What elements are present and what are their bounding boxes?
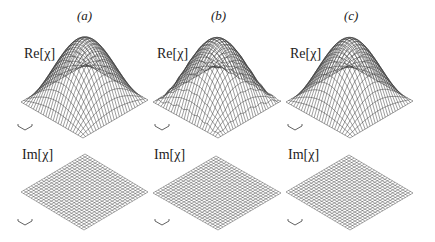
im-surface-a-line-v <box>81 190 145 228</box>
im-surface-c-line-v <box>347 191 410 228</box>
im-surface-a-line-u <box>67 165 130 203</box>
im-surface-a-line-u <box>44 178 107 216</box>
figure: (a) (b) (c) Re[χ] Re[χ] Re[χ] Im[χ] Im[χ… <box>0 0 435 242</box>
im-surface-c-line-v <box>330 181 393 218</box>
im-surface-a-line-u <box>59 169 122 207</box>
im-surface-a-line-v <box>51 172 115 210</box>
im-surface-a-line-u <box>62 168 125 206</box>
panel-label-b: (b) <box>211 8 226 24</box>
im-surface-c-line-v <box>317 173 380 210</box>
im-label-a: Im[χ] <box>22 147 53 163</box>
wireframe-plots <box>0 0 435 242</box>
re-axes-icon-b <box>155 124 169 130</box>
re-surface-a-line-u <box>21 102 83 138</box>
re-surface-a-line-v <box>83 100 148 138</box>
im-surface-a-line-v <box>64 180 128 218</box>
im-surface-a-line-u <box>52 174 115 212</box>
im-surface-c-line-v <box>314 172 377 209</box>
im-surface-c-line-v <box>340 187 403 224</box>
re-surface-b-line-u <box>153 102 218 138</box>
im-surface-a-line-u <box>24 190 87 228</box>
im-surface-a-line-v <box>39 165 103 203</box>
im-surface-a-line-u <box>41 180 104 218</box>
im-surface-a-line-v <box>36 163 100 201</box>
re-surface-b-line-v <box>208 82 271 133</box>
im-axes-icon-c <box>288 219 302 225</box>
im-surface-a-line-u <box>57 171 120 209</box>
im-surface-a-line-v <box>46 169 110 207</box>
im-surface-a-line-u <box>54 172 117 210</box>
im-surface-c-line-v <box>337 185 400 222</box>
im-axes-icon-a <box>18 219 32 225</box>
im-surface-a-line-u <box>70 163 133 201</box>
im-surface-a-line-u <box>80 157 143 195</box>
im-surface-a-line-v <box>84 192 148 230</box>
im-surface-c-line-v <box>296 161 359 198</box>
im-surface-c-line-v <box>294 160 357 197</box>
im-surface-c-line-v <box>335 184 398 221</box>
im-surface-a-line-u <box>21 192 84 230</box>
im-label-b: Im[χ] <box>154 147 185 163</box>
im-surface-a-line-v <box>79 189 143 227</box>
re-surface-a-line-v <box>21 64 86 102</box>
im-surface-a-line-v <box>59 177 123 215</box>
im-surface-a-line-u <box>47 177 110 215</box>
im-surface-a-line-v <box>41 166 105 204</box>
im-surface-a-line-v <box>76 187 140 225</box>
im-surface-a-line-v <box>66 181 130 219</box>
im-axes-icon-b <box>155 219 169 225</box>
im-surface-a-line-u <box>72 162 135 200</box>
im-surface-a-line-v <box>61 178 125 216</box>
im-surface-a-line-u <box>49 175 112 213</box>
im-surface-a-line-v <box>34 162 98 200</box>
im-surface-a-line-v <box>71 184 135 222</box>
re-surface-a-line-v <box>76 89 141 134</box>
im-surface-a-line-v <box>49 171 113 209</box>
re-surface-b-line-u <box>183 39 248 120</box>
im-surface-c-line-v <box>319 175 382 212</box>
im-surface-a-line-v <box>31 160 95 198</box>
re-surface-b-line-v <box>218 101 281 138</box>
im-surface-c-line-v <box>309 169 372 206</box>
im-surface-a-line-v <box>54 174 118 212</box>
im-surface-c-line-v <box>312 170 375 207</box>
im-surface-a-line-u <box>29 187 92 225</box>
im-surface-a-line-v <box>56 175 120 213</box>
re-surface-c-line-u <box>301 67 365 129</box>
im-surface-a-line-u <box>77 159 140 197</box>
re-label-b: Re[χ] <box>157 46 188 62</box>
im-surface-a-line-v <box>69 183 133 221</box>
im-surface-a-line-u <box>26 189 89 227</box>
im-surface-c-line-v <box>322 176 385 213</box>
im-surface-c-line-v <box>301 164 364 201</box>
im-surface-c-line-v <box>350 193 413 230</box>
im-surface-a-line-u <box>75 160 138 198</box>
im-surface-c-line-v <box>345 190 408 227</box>
im-surface-a-line-u <box>65 166 128 204</box>
im-surface-a-line-v <box>44 168 108 206</box>
im-surface-c-line-v <box>332 182 395 219</box>
im-surface-a-line-v <box>74 186 138 224</box>
im-surface-c-line-v <box>291 158 354 195</box>
re-surface-c-line-u <box>286 102 350 138</box>
im-surface-a-line-u <box>36 183 99 221</box>
im-surface-c-line-v <box>304 166 367 203</box>
im-surface-c-line-v <box>324 178 387 215</box>
panel-label-a: (a) <box>77 8 92 24</box>
im-surface-a-line-u <box>82 156 145 194</box>
re-surface-a-line-v <box>53 39 118 121</box>
im-surface-a-line-u <box>39 181 102 219</box>
im-surface-c-line-v <box>327 179 390 216</box>
im-surface-a-line-u <box>34 184 97 222</box>
re-surface-a-line-v <box>26 65 91 104</box>
im-surface-c-line-v <box>306 167 369 204</box>
im-label-c: Im[χ] <box>288 147 319 163</box>
im-surface-c-line-v <box>342 188 405 225</box>
im-surface-a-line-v <box>29 159 93 197</box>
im-surface-a-line-u <box>31 186 94 224</box>
re-axes-icon-a <box>18 124 32 130</box>
im-surface-c-line-v <box>299 163 362 200</box>
re-surface-b-line-v <box>161 61 224 106</box>
im-surface-a-line-u <box>85 154 148 192</box>
re-axes-icon-c <box>288 124 302 130</box>
